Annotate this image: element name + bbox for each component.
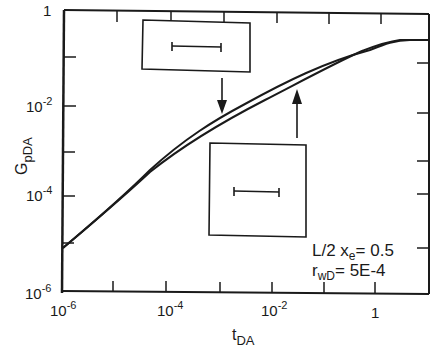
y-tick-label-1e-2: 10-2 <box>26 95 52 115</box>
x-tick-label-1e-6: 10-6 <box>50 299 76 319</box>
bottom-inset-diagram <box>209 143 306 237</box>
arrow-up-icon <box>292 89 302 138</box>
y-axis-title: GpDA <box>13 137 35 175</box>
y-tick-label-1e-4: 10-4 <box>26 184 52 204</box>
y-axis-ticks-right <box>417 63 429 248</box>
x-axis-title: tDA <box>232 326 255 348</box>
x-tick-label-1: 1 <box>371 304 379 321</box>
x-tick-label-1e-4: 10-4 <box>157 299 183 319</box>
top-inset-diagram <box>142 20 250 72</box>
annotation-line-1: L/2 xe= 0.5 <box>312 241 394 263</box>
parameter-annotation: L/2 xe= 0.5 rwD= 5E-4 <box>312 241 394 283</box>
arrow-down-icon <box>217 78 227 114</box>
x-tick-label-1e-2: 10-2 <box>261 299 287 319</box>
x-tick-labels: 10-6 10-4 10-2 1 <box>50 299 379 321</box>
y-tick-label-1e-6: 10-6 <box>25 282 51 302</box>
annotation-line-2: rwD= 5E-4 <box>312 261 386 283</box>
y-tick-label-1: 1 <box>43 2 51 19</box>
chart-canvas: 1 10-2 10-4 10-6 10-6 10-4 10-2 1 tDA Gp… <box>0 0 435 352</box>
